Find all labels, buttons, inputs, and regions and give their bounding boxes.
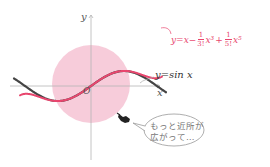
poly-frac2: 1 5!: [225, 31, 232, 48]
callout-text: もっと近所が 広がって…: [150, 121, 220, 143]
polynomial-label-leader: [161, 28, 171, 34]
poly-term1: x³: [206, 35, 215, 45]
poly-plus: +: [215, 35, 223, 45]
polynomial-equation-label: y=x− 1 3! x³ + 1 5! x⁵: [171, 31, 242, 48]
origin-label: O: [83, 86, 90, 96]
sine-equation-text: y=sin x: [155, 69, 193, 80]
sine-equation-label: y=sin x: [155, 69, 193, 80]
pointing-hand-icon: [117, 113, 130, 123]
poly-lhs: y=x−: [171, 35, 196, 45]
x-axis-label: x: [157, 87, 163, 98]
taylor-approximation-figure: [0, 0, 270, 167]
speech-bubble-tail: [133, 123, 145, 131]
callout-line-2: 広がって…: [150, 132, 220, 143]
y-axis-label: y: [81, 11, 87, 22]
poly-frac1: 1 3!: [197, 31, 204, 48]
callout-line-1: もっと近所が: [150, 121, 220, 132]
poly-term2: x⁵: [233, 35, 242, 45]
